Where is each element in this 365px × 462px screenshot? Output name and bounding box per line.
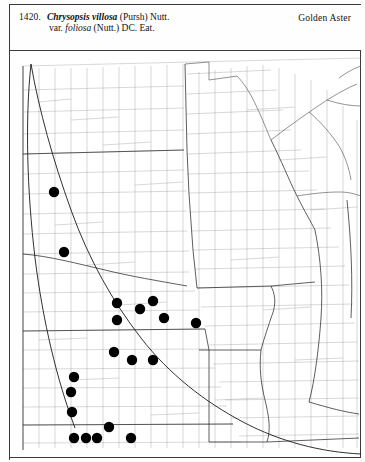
occurrence-dot: [148, 296, 158, 306]
great-lakes: [185, 62, 361, 196]
occurrence-dot: [191, 318, 201, 328]
occurrence-dot: [104, 422, 114, 432]
occurrence-dot: [109, 347, 119, 357]
authority-2: (Nutt.) DC. Eat.: [94, 23, 155, 33]
scientific-name-line-1: Chrysopsis villosa (Pursh) Nutt.: [47, 12, 169, 22]
occurrence-dot: [66, 387, 76, 397]
plate-number: 1420.: [19, 12, 41, 22]
occurrence-dot: [127, 355, 137, 365]
genus-species: Chrysopsis villosa: [47, 12, 117, 22]
occurrence-dot: [148, 355, 158, 365]
occurrence-dot: [159, 313, 169, 323]
occurrence-dot: [112, 315, 122, 325]
occurrence-dot: [81, 433, 91, 443]
occurrence-dot: [112, 298, 122, 308]
occurrence-dot: [67, 407, 77, 417]
occurrence-dot: [59, 247, 69, 257]
occurrence-dot: [135, 304, 145, 314]
distribution-map: [9, 50, 361, 458]
occurrence-dot: [49, 187, 59, 197]
map-svg: [9, 50, 361, 458]
caption-line-2: var. foliosa (Nutt.) DC. Eat.: [49, 23, 353, 33]
plate-page: 1420. Chrysopsis villosa (Pursh) Nutt. v…: [0, 0, 365, 462]
occurrence-dot: [126, 433, 136, 443]
authority-1: (Pursh) Nutt.: [120, 12, 170, 22]
occurrence-dot: [92, 433, 102, 443]
occurrence-dot: [69, 433, 79, 443]
occurrence-dot-layer: [49, 187, 201, 443]
variety-prefix: var.: [49, 23, 63, 33]
occurrence-dot: [69, 372, 79, 382]
common-name: Golden Aster: [298, 13, 351, 23]
plate-caption: 1420. Chrysopsis villosa (Pursh) Nutt. v…: [9, 4, 361, 50]
variety-epithet: foliosa: [65, 23, 91, 33]
